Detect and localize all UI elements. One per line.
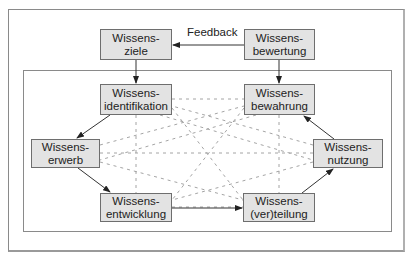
node-line1: Wissens- [255,195,302,208]
node-wissensbewertung: Wissens- bewertung [244,29,315,60]
connector-lines [0,0,412,260]
node-line2: erwerb [48,154,83,167]
node-wissenserwerb: Wissens- erwerb [31,139,100,168]
node-line2: ziele [124,45,148,58]
node-wissensverteilung: Wissens- (ver)teilung [243,193,315,222]
node-line1: Wissens- [256,87,303,100]
arrow-verteilung-nutzung [302,169,333,193]
node-line2: bewertung [253,45,307,58]
node-line2: bewahrung [251,100,308,113]
arrow-nutzung-bewahrung [304,116,334,139]
node-line2: identifikation [104,100,168,113]
node-wissensziele: Wissens- ziele [100,29,172,60]
node-wissensnutzung: Wissens- nutzung [313,139,383,168]
arrow-identifikation-erwerb [77,115,110,138]
node-line2: nutzung [328,154,369,167]
node-line1: Wissens- [112,32,159,45]
node-line1: Wissens- [112,195,159,208]
node-line1: Wissens- [112,87,159,100]
node-line2: entwicklung [106,208,166,221]
feedback-label: Feedback [187,26,238,38]
node-line1: Wissens- [42,141,89,154]
node-wissensidentifikation: Wissens- identifikation [100,84,172,115]
node-line1: Wissens- [324,141,371,154]
node-wissensbewahrung: Wissens- bewahrung [244,84,315,115]
dashed-interconnections [100,99,313,207]
node-line1: Wissens- [256,32,303,45]
arrow-erwerb-entwicklung [78,168,110,192]
node-line2: (ver)teilung [250,208,308,221]
node-wissensentwicklung: Wissens- entwicklung [100,193,172,222]
